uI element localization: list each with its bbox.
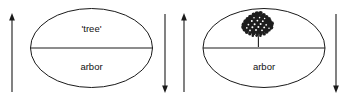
arrow-down-right-outer (333, 14, 339, 93)
sign-left-upper-label: 'tree' (82, 23, 102, 34)
arrow-down-left-inner (162, 14, 168, 93)
sign-right: arbor (203, 9, 325, 88)
arrow-1-head (9, 13, 15, 21)
arrow-2-head (162, 86, 168, 94)
sign-left: 'tree' arbor (31, 9, 153, 88)
arrow-4-head (333, 86, 339, 94)
arrow-up-right-inner (181, 13, 187, 92)
sign-left-lower-label: arbor (80, 61, 102, 72)
arrow-up-left-outer (9, 13, 15, 92)
diagram-canvas: 'tree' arbor (0, 0, 347, 96)
arrow-3-head (181, 13, 187, 21)
sign-right-lower-label: arbor (253, 61, 275, 72)
semiotic-sign-diagram: 'tree' arbor (0, 0, 347, 96)
